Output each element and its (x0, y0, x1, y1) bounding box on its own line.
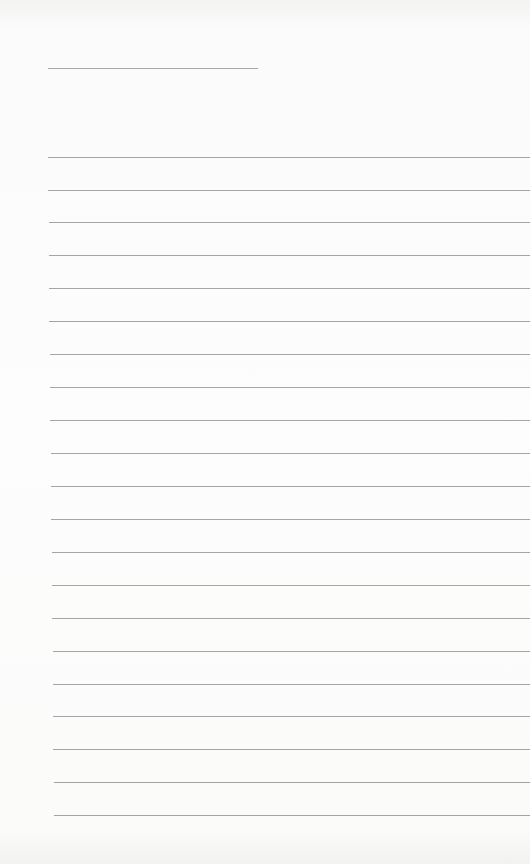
header-line (48, 68, 258, 69)
ruled-line (49, 255, 530, 256)
ruled-line (54, 815, 530, 816)
ruled-line (51, 486, 530, 487)
ruled-line (49, 222, 530, 223)
ruled-line (52, 585, 530, 586)
ruled-line (53, 684, 530, 685)
ruled-line (52, 552, 530, 553)
ruled-line (53, 651, 530, 652)
ruled-line (53, 749, 530, 750)
ruled-line (51, 519, 530, 520)
ruled-line (49, 321, 530, 322)
ruled-line (50, 420, 530, 421)
ruled-line (51, 453, 530, 454)
ruled-line (54, 782, 530, 783)
ruled-line (50, 387, 530, 388)
ruled-line (53, 716, 530, 717)
lined-paper-sheet (0, 0, 530, 864)
ruled-line (48, 190, 530, 191)
ruled-line (48, 157, 530, 158)
ruled-line (49, 288, 530, 289)
ruled-line (52, 618, 530, 619)
ruled-line (50, 354, 530, 355)
